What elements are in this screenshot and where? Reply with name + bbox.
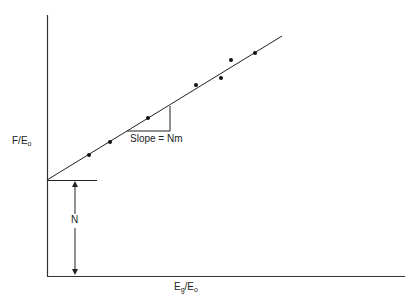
x-axis-label-sub2: o xyxy=(194,286,198,293)
y-axis-label: F/Eo xyxy=(12,135,31,146)
x-axis-label: Eg/Eo xyxy=(174,281,198,292)
data-point xyxy=(87,153,91,157)
x-axis-label-sep: /E xyxy=(185,281,194,292)
intercept-label: N xyxy=(71,214,78,225)
x-axis-label-main: E xyxy=(174,281,181,292)
x-axis-label-sub: g xyxy=(181,286,185,293)
fit-line xyxy=(47,36,282,180)
data-point xyxy=(253,51,257,55)
data-point xyxy=(146,116,150,120)
chart-canvas xyxy=(0,0,417,305)
slope-label: Slope = Nm xyxy=(130,133,183,144)
data-point xyxy=(194,83,198,87)
data-point xyxy=(108,140,112,144)
y-axis-label-main: F/E xyxy=(12,135,28,146)
y-axis-label-sub: o xyxy=(28,140,32,147)
data-point xyxy=(219,76,223,80)
data-point xyxy=(229,58,233,62)
